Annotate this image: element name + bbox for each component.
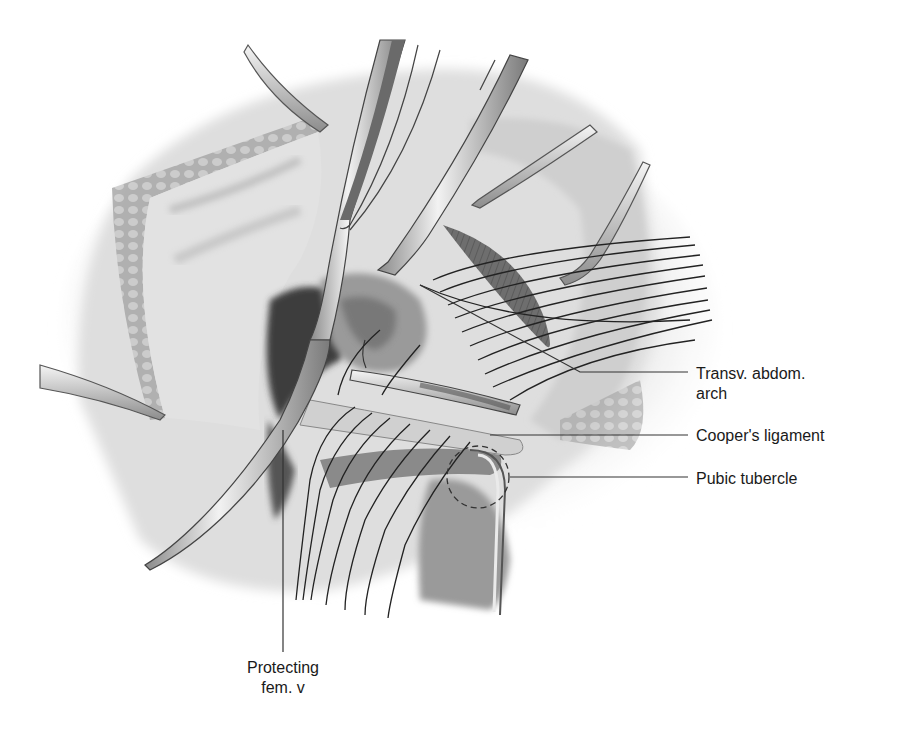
label-protecting-fem-v: Protecting fem. v (228, 658, 338, 698)
label-pubic-tubercle: Pubic tubercle (696, 469, 797, 489)
label-coopers-ligament: Cooper's ligament (696, 426, 824, 446)
label-coopers-ligament-text: Cooper's ligament (696, 426, 824, 446)
label-transv-abdom-arch: Transv. abdom. arch (696, 364, 805, 404)
label-protecting-fem-v-line1: Protecting (228, 658, 338, 678)
label-protecting-fem-v-line2: fem. v (228, 678, 338, 698)
label-transv-abdom-arch-line2: arch (696, 384, 805, 404)
label-transv-abdom-arch-line1: Transv. abdom. (696, 364, 805, 384)
label-pubic-tubercle-text: Pubic tubercle (696, 469, 797, 489)
